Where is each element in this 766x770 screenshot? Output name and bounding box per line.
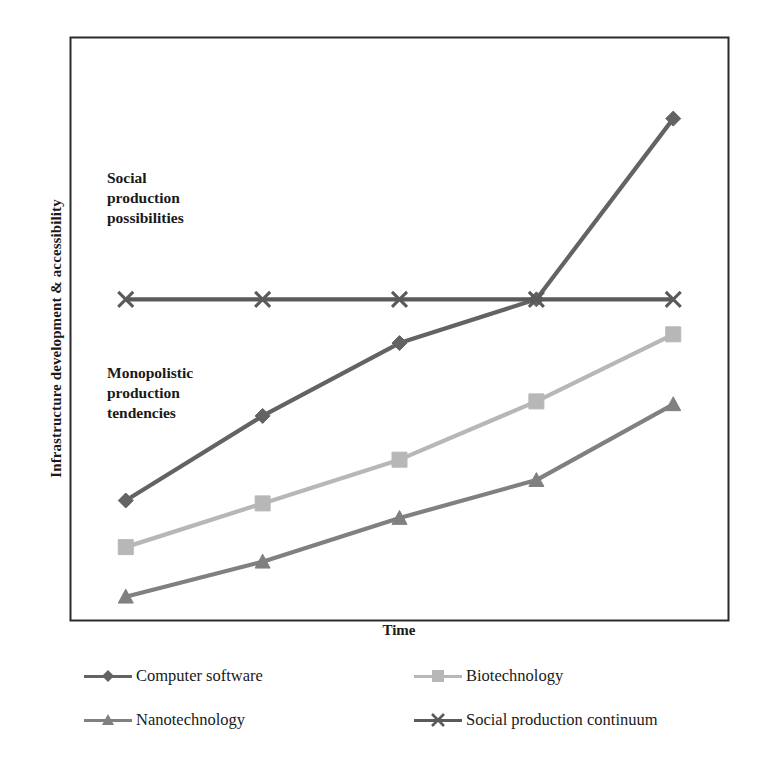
legend-label: Social production continuum	[466, 710, 658, 730]
data-point	[529, 394, 544, 409]
legend-item-biotechnology[interactable]: Biotechnology	[414, 666, 744, 686]
legend-key-marker	[101, 713, 115, 727]
data-point	[666, 397, 681, 411]
y-axis-title: Infrastructure development & accessibili…	[48, 129, 65, 549]
legend-label: Computer software	[136, 666, 263, 686]
data-point	[118, 540, 133, 555]
legend-label: Biotechnology	[466, 666, 563, 686]
series-social-production-continuum	[118, 292, 681, 307]
legend-label: Nanotechnology	[136, 710, 245, 730]
legend-item-nanotechnology[interactable]: Nanotechnology	[84, 710, 414, 730]
x-axis-title: Time	[70, 622, 728, 639]
chart-figure: Infrastructure development & accessibili…	[0, 0, 766, 770]
legend-key-marker	[431, 669, 445, 683]
legend-key-cross-icon	[414, 712, 462, 728]
legend-key-diamond-icon	[84, 668, 132, 684]
legend-item-computer-software[interactable]: Computer software	[84, 666, 414, 686]
series-nanotechnology	[118, 397, 681, 603]
series-line	[126, 404, 674, 596]
series-line	[126, 119, 674, 501]
legend-key-triangle-icon	[84, 712, 132, 728]
legend-key-square-icon	[414, 668, 462, 684]
legend-key-marker	[101, 669, 115, 683]
legend-item-social-production-continuum[interactable]: Social production continuum	[414, 710, 744, 730]
data-point	[392, 336, 407, 351]
annotation-social-production-possibilities: Social production possibilities	[107, 168, 184, 227]
series-layer	[118, 111, 681, 603]
annotation-monopolistic-production-tendencies: Monopolistic production tendencies	[107, 363, 193, 422]
data-point	[666, 327, 681, 342]
chart-legend: Computer softwareBiotechnologyNanotechno…	[84, 666, 744, 730]
data-point	[255, 496, 270, 511]
legend-key-marker	[431, 713, 445, 727]
data-point	[392, 452, 407, 467]
